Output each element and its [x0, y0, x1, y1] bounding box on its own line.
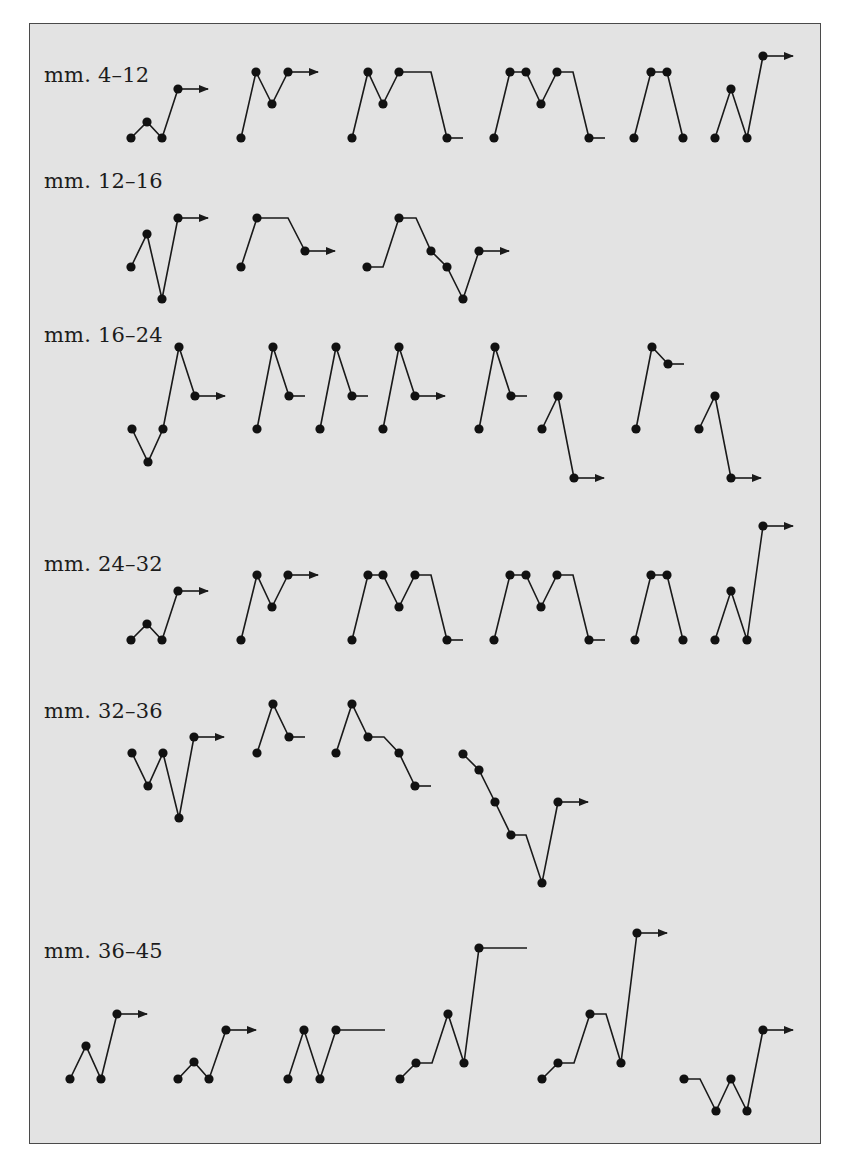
contour-line	[288, 1030, 336, 1079]
pitch-dot	[81, 1041, 90, 1050]
pitch-dot	[632, 928, 641, 937]
row-label: mm. 36–45	[44, 939, 163, 963]
contour-glyph	[474, 342, 527, 433]
pitch-dot	[347, 133, 356, 142]
pitch-dot	[726, 1074, 735, 1083]
pitch-dot	[174, 813, 183, 822]
pitch-dot	[506, 830, 515, 839]
pitch-dot	[679, 1074, 688, 1083]
contour-row	[65, 928, 793, 1115]
pitch-dot	[646, 570, 655, 579]
pitch-dot	[758, 521, 767, 530]
contour-row	[126, 213, 509, 303]
pitch-dot	[331, 1025, 340, 1034]
pitch-dot	[284, 391, 293, 400]
pitch-dot	[489, 133, 498, 142]
pitch-dot	[142, 117, 151, 126]
contour-glyph	[630, 570, 687, 644]
contour-line	[634, 72, 683, 138]
pitch-dot	[283, 570, 292, 579]
pitch-dot	[474, 246, 483, 255]
pitch-dot	[331, 748, 340, 757]
pitch-dot	[143, 457, 152, 466]
contour-line	[131, 591, 178, 640]
contour-line	[367, 218, 479, 299]
pitch-dot	[647, 342, 656, 351]
pitch-dot	[629, 133, 638, 142]
contour-row	[126, 51, 793, 142]
pitch-dot	[252, 213, 261, 222]
pitch-dot	[426, 246, 435, 255]
pitch-dot	[127, 424, 136, 433]
contour-line	[131, 218, 178, 299]
pitch-dot	[378, 424, 387, 433]
pitch-dot	[410, 391, 419, 400]
contour-glyph	[347, 67, 463, 142]
pitch-dot	[505, 67, 514, 76]
pitch-dot	[474, 424, 483, 433]
pitch-dot	[536, 99, 545, 108]
pitch-dot	[252, 570, 261, 579]
pitch-dot	[711, 1106, 720, 1115]
pitch-dot	[646, 67, 655, 76]
pitch-dot	[299, 1025, 308, 1034]
pitch-dot	[458, 294, 467, 303]
contour-glyph	[710, 521, 793, 644]
pitch-dot	[158, 748, 167, 757]
contour-line	[699, 396, 731, 478]
pitch-dot	[173, 84, 182, 93]
contour-glyph	[537, 928, 667, 1083]
pitch-dot	[378, 570, 387, 579]
contour-glyph	[458, 749, 588, 887]
pitch-dot	[189, 732, 198, 741]
pitch-dot	[283, 67, 292, 76]
pitch-dot	[553, 391, 562, 400]
pitch-dot	[394, 602, 403, 611]
contour-line	[684, 1030, 763, 1111]
pitch-dot	[394, 67, 403, 76]
pitch-dot	[363, 67, 372, 76]
contour-glyph	[252, 342, 305, 433]
pitch-dot	[283, 1074, 292, 1083]
pitch-dot	[252, 424, 261, 433]
pitch-dot	[506, 391, 515, 400]
contour-glyph	[710, 51, 793, 142]
pitch-dot	[726, 473, 735, 482]
pitch-dot	[347, 635, 356, 644]
pitch-dot	[394, 748, 403, 757]
pitch-dot	[552, 570, 561, 579]
pitch-dot	[221, 1025, 230, 1034]
contour-glyph	[489, 67, 605, 142]
pitch-dot	[474, 943, 483, 952]
pitch-dot	[490, 797, 499, 806]
contour-line	[257, 704, 289, 753]
contour-glyph	[315, 342, 368, 433]
contour-line	[383, 347, 415, 429]
row-label: mm. 4–12	[44, 63, 149, 87]
contour-glyph	[489, 570, 605, 644]
pitch-dot	[190, 391, 199, 400]
pitch-dot	[236, 262, 245, 271]
pitch-dot	[710, 133, 719, 142]
pitch-dot	[236, 635, 245, 644]
contour-line	[70, 1014, 117, 1079]
pitch-dot	[284, 732, 293, 741]
contour-line	[635, 575, 683, 640]
pitch-dot	[204, 1074, 213, 1083]
pitch-dot	[157, 635, 166, 644]
pitch-dot	[521, 67, 530, 76]
pitch-dot	[694, 424, 703, 433]
pitch-dot	[142, 619, 151, 628]
contour-glyph	[395, 943, 527, 1083]
pitch-dot	[267, 602, 276, 611]
pitch-dot	[710, 391, 719, 400]
row-label: mm. 24–32	[44, 552, 163, 576]
contour-glyph	[283, 1025, 385, 1083]
pitch-dot	[347, 699, 356, 708]
pitch-dot	[347, 391, 356, 400]
pitch-dot	[537, 878, 546, 887]
pitch-dot	[585, 1009, 594, 1018]
contour-glyph	[126, 84, 208, 142]
pitch-dot	[157, 133, 166, 142]
pitch-dot	[126, 133, 135, 142]
